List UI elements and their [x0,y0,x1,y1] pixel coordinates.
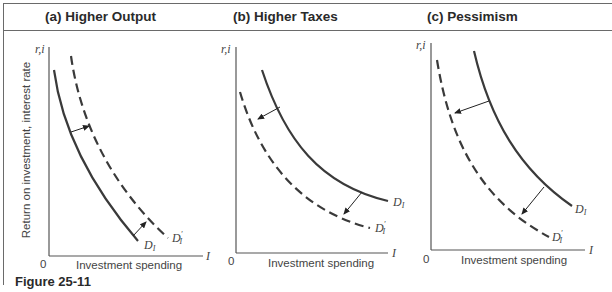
panel-c-x-label: Investment spending [461,254,567,266]
panel-c-shift-arrow-upper [455,101,489,113]
panel-c-shift-arrow-lower [522,187,544,214]
panel-c-chart: r,i I 0 Investment spending DI D′I [416,38,594,266]
panel-a-x-label: Investment spending [76,259,182,271]
panel-b-shift-arrow-upper [258,107,280,119]
panel-b-shift-arrow-lower [344,192,362,214]
panel-a-shifted-curve-label: D′I [171,230,183,246]
panel-b-shifted-curve-label: D′I [374,220,386,236]
panel-a-origin-label: 0 [40,258,46,270]
panel-a-shift-arrow-upper [71,126,89,132]
panel-b-x-symbol: I [391,246,397,260]
panel-b-x-label: Investment spending [268,257,374,269]
panel-a-curve-original [54,70,138,241]
charts-canvas: r,i I 0 Investment spending DI D′I r,i I… [0,0,612,292]
panel-a-shift-arrow-lower [133,222,146,236]
panel-c-curve-shifted [437,60,549,237]
panel-c-curve-original [474,51,572,206]
panel-c-origin-label: 0 [423,253,429,265]
panel-c-original-curve-label: DI [574,202,587,217]
figure-caption: Figure 25-11 [15,274,91,289]
panel-c-x-symbol: I [588,243,594,257]
panel-b-chart: r,i I 0 Investment spending DI D′I [221,42,405,269]
panel-b-curve-original [262,70,388,201]
panel-b-curve-shifted [240,92,370,228]
panel-a-y-symbol: r,i [35,42,45,56]
panel-a-curve-shifted [71,56,168,238]
panel-c-shifted-curve-label: D′I [551,229,563,245]
panel-b-original-curve-label: DI [392,195,405,210]
panel-a-x-symbol: I [205,249,211,263]
panel-b-origin-label: 0 [228,255,234,267]
panel-c-y-symbol: r,i [416,38,426,52]
panel-a-original-curve-label: DI [143,238,156,253]
panel-b-y-symbol: r,i [221,42,231,56]
panel-a-chart: r,i I 0 Investment spending DI D′I [35,42,211,271]
